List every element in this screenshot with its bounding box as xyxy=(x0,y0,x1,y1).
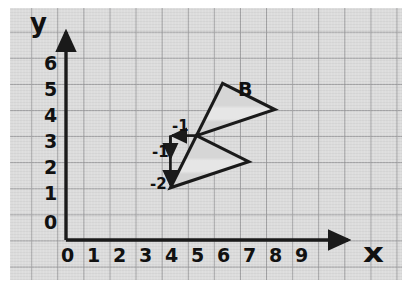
x-tick-8: 8 xyxy=(269,246,282,265)
graph-figure: y x 6 5 4 3 2 1 0 0 1 2 3 4 5 6 7 8 9 B … xyxy=(0,0,411,287)
y-tick-1: 1 xyxy=(44,184,57,203)
triangle-image-shape xyxy=(170,136,248,188)
x-tick-9: 9 xyxy=(295,246,308,265)
vector-vertical-mid-label: -1 xyxy=(152,145,169,160)
x-tick-4: 4 xyxy=(165,246,178,265)
x-tick-0: 0 xyxy=(61,246,74,265)
vector-horizontal-label: -1 xyxy=(172,119,189,134)
y-axis-label: y xyxy=(30,10,47,36)
x-tick-1: 1 xyxy=(87,246,100,265)
y-tick-2: 2 xyxy=(44,158,57,177)
x-tick-2: 2 xyxy=(113,246,126,265)
x-axis-label: x xyxy=(363,240,384,266)
vector-vertical-end-label: -2 xyxy=(150,177,167,192)
x-tick-7: 7 xyxy=(243,246,256,265)
y-tick-3: 3 xyxy=(44,132,57,151)
y-tick-0: 0 xyxy=(44,213,57,232)
x-tick-3: 3 xyxy=(139,246,152,265)
x-tick-6: 6 xyxy=(217,246,230,265)
x-tick-5: 5 xyxy=(191,246,204,265)
y-tick-4: 4 xyxy=(44,106,57,125)
triangle-b-shape xyxy=(197,83,275,135)
triangle-b-label: B xyxy=(238,80,252,99)
y-tick-5: 5 xyxy=(44,80,57,99)
y-tick-6: 6 xyxy=(44,54,57,73)
